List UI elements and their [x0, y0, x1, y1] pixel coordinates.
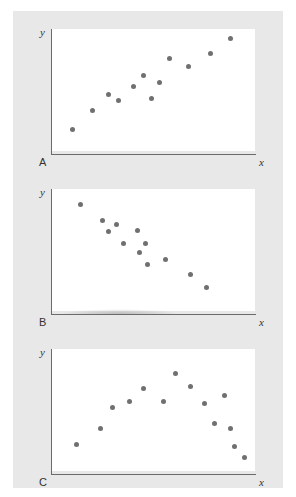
- data-point: [208, 51, 213, 56]
- panel-a: y x A: [13, 18, 283, 170]
- data-point: [78, 202, 83, 207]
- data-point: [222, 393, 227, 398]
- data-point: [161, 399, 166, 404]
- data-point: [121, 241, 126, 246]
- x-axis-a: [51, 154, 256, 155]
- data-point: [163, 257, 168, 262]
- data-point: [242, 455, 247, 460]
- panel-c: y x C: [13, 338, 283, 493]
- y-axis-label-a: y: [40, 27, 45, 38]
- y-axis-label-c: y: [40, 347, 45, 358]
- data-point: [141, 386, 146, 391]
- panel-b: y x B: [13, 178, 283, 330]
- panel-letter-c: C: [39, 477, 47, 488]
- panel-letter-a: A: [39, 157, 46, 168]
- data-point: [167, 56, 172, 61]
- x-axis-label-a: x: [259, 157, 264, 168]
- data-point: [145, 262, 150, 267]
- figure-frame: y x A y x B y x C: [13, 11, 283, 488]
- data-point: [157, 80, 162, 85]
- data-point: [110, 405, 115, 410]
- y-axis-label-b: y: [40, 187, 45, 198]
- data-point: [74, 442, 79, 447]
- data-point: [232, 444, 237, 449]
- data-point: [98, 426, 103, 431]
- data-point: [135, 228, 140, 233]
- data-point: [131, 84, 136, 89]
- data-point: [137, 250, 142, 255]
- x-axis-label-c: x: [259, 477, 264, 488]
- data-point: [141, 73, 146, 78]
- scatter-points-b: [52, 189, 255, 311]
- data-point: [106, 92, 111, 97]
- scatter-points-a: [52, 29, 255, 151]
- data-point: [173, 371, 178, 376]
- data-point: [149, 96, 154, 101]
- x-axis-c: [51, 474, 256, 475]
- data-point: [70, 127, 75, 132]
- data-point: [100, 218, 105, 223]
- data-point: [212, 421, 217, 426]
- scatterplot-figure: y x A y x B y x C: [0, 0, 296, 497]
- scatter-points-c: [52, 349, 255, 471]
- data-point: [228, 426, 233, 431]
- x-axis-b: [51, 314, 256, 315]
- data-point: [143, 241, 148, 246]
- data-point: [90, 108, 95, 113]
- data-point: [106, 229, 111, 234]
- data-point: [188, 384, 193, 389]
- data-point: [204, 285, 209, 290]
- data-point: [186, 64, 191, 69]
- data-point: [228, 36, 233, 41]
- data-point: [116, 98, 121, 103]
- x-axis-label-b: x: [259, 317, 264, 328]
- data-point: [188, 272, 193, 277]
- data-point: [202, 401, 207, 406]
- data-point: [114, 222, 119, 227]
- data-point: [127, 399, 132, 404]
- panel-letter-b: B: [39, 317, 46, 328]
